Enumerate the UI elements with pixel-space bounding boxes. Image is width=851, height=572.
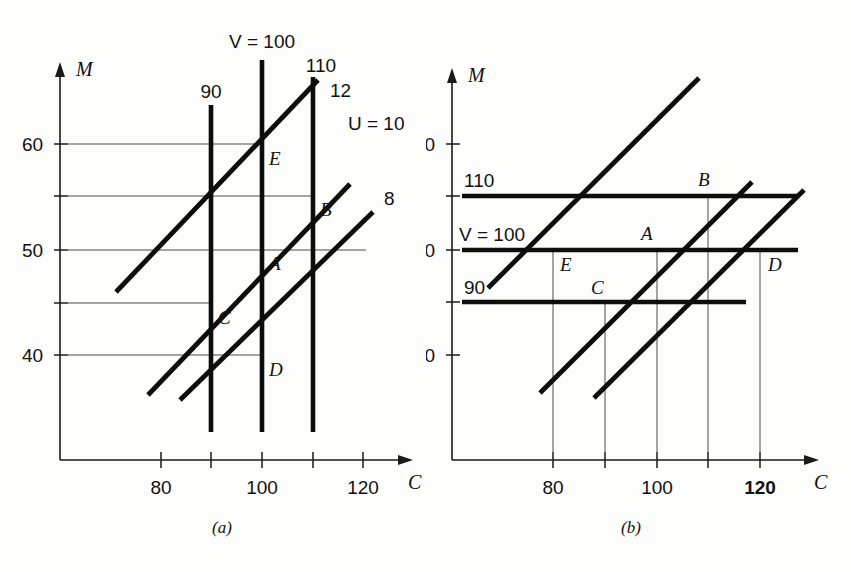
panel-a-caption: (a) <box>212 518 232 537</box>
panel-a-u-curves <box>116 80 373 400</box>
panel-b-caption: (b) <box>621 518 641 537</box>
point-label-E: E <box>559 254 572 275</box>
point-label-D: D <box>268 359 283 380</box>
u-curve-10 <box>540 182 752 393</box>
panel-a: M C 60 50 40 80 100 1 <box>0 0 426 572</box>
panel-b-vertical-gridlines <box>553 196 760 452</box>
u-12-curve-label: 12 <box>330 80 351 101</box>
v-110-curve-label: 110 <box>306 55 336 76</box>
y-tick-label-40: 40 <box>426 345 435 366</box>
y-axis-label: M <box>467 64 486 86</box>
point-label-D: D <box>767 254 782 275</box>
panel-b: M C 60 50 40 80 100 1 <box>426 0 851 572</box>
v-100-curve-label-group: V = 100 <box>229 31 295 52</box>
panel-a-y-ticks <box>54 144 68 355</box>
point-label-A: A <box>639 223 653 244</box>
x-axis-label: C <box>408 471 422 493</box>
u-curve-12 <box>116 80 318 292</box>
u-10-curve-label: U = 10 <box>348 113 405 134</box>
point-label-C: C <box>591 277 604 298</box>
x-axis-arrowhead <box>804 455 819 465</box>
y-tick-label-60: 60 <box>426 134 435 155</box>
u-curve-12 <box>488 78 699 288</box>
panel-b-y-ticks <box>446 144 460 355</box>
x-tick-label-120: 120 <box>347 477 379 498</box>
point-label-E: E <box>268 148 281 169</box>
y-axis-arrowhead <box>447 68 457 83</box>
x-tick-label-120: 120 <box>744 477 776 498</box>
x-tick-label-100: 100 <box>246 477 278 498</box>
panel-a-v-curves <box>211 60 313 432</box>
panel-b-y-axis: M <box>447 64 486 460</box>
x-axis-arrowhead <box>398 455 413 465</box>
x-tick-label-80: 80 <box>150 477 171 498</box>
point-label-A: A <box>267 253 281 274</box>
v-90-curve-label: 90 <box>200 81 221 102</box>
x-tick-label-80: 80 <box>542 477 563 498</box>
y-axis-arrowhead <box>55 62 65 77</box>
panel-a-y-axis: M <box>55 58 94 460</box>
y-tick-label-60: 60 <box>22 134 43 155</box>
figure-root: M C 60 50 40 80 100 1 <box>0 0 851 572</box>
y-tick-label-40: 40 <box>22 345 43 366</box>
point-label-B: B <box>698 169 710 190</box>
u-curve-8 <box>594 190 804 398</box>
point-label-B: B <box>320 199 332 220</box>
y-tick-label-50: 50 <box>426 240 435 261</box>
point-label-C: C <box>218 307 231 328</box>
v-100-curve-label: V = 100 <box>229 31 295 52</box>
y-tick-label-50: 50 <box>22 240 43 261</box>
u-8-curve-label: 8 <box>384 188 395 209</box>
v-90-curve-label: 90 <box>464 277 485 298</box>
x-axis-label: C <box>814 471 828 493</box>
v-110-curve-label: 110 <box>464 170 494 191</box>
y-axis-label: M <box>75 58 94 80</box>
x-tick-label-100: 100 <box>641 477 673 498</box>
v-100-curve-label: V = 100 <box>459 224 525 245</box>
